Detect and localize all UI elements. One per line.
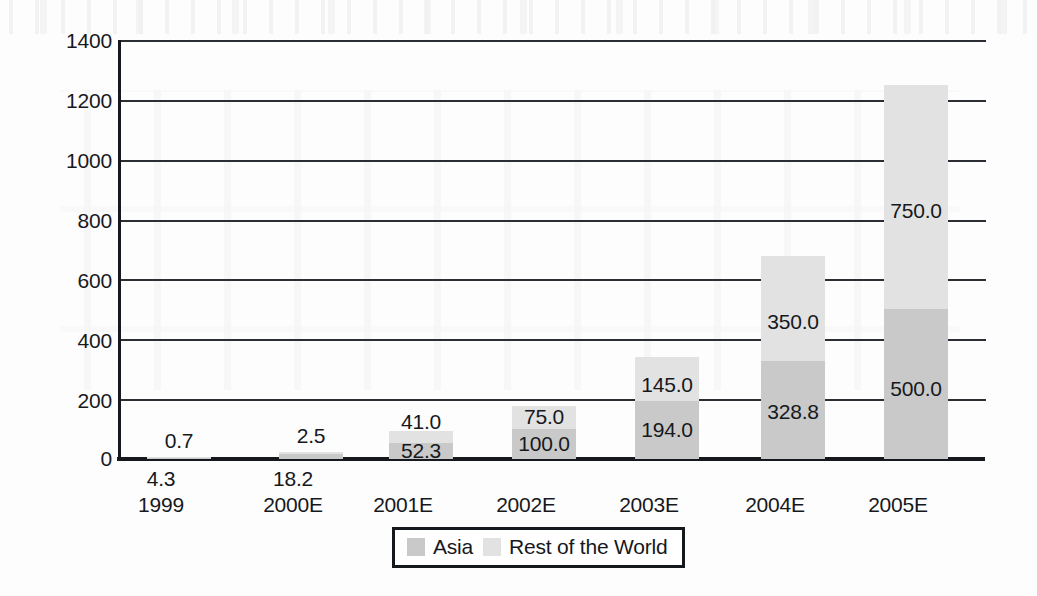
bar-label-rest-of-world-2002E: 75.0 <box>524 405 564 429</box>
x-category-2000E: 18.2 2000E <box>247 466 339 518</box>
bar-1999[interactable]: 0.7 <box>147 457 211 459</box>
bar-label-rest-of-world-2001E: 41.0 <box>401 410 441 434</box>
bar-2003E[interactable]: 194.0 145.0 <box>635 357 699 459</box>
asia-swatch-icon <box>407 538 425 556</box>
bar-label-asia-2005E: 500.0 <box>890 377 942 401</box>
gridline-800 <box>118 220 986 222</box>
x-category-below-value-1999: 4.3 <box>115 466 207 492</box>
y-axis-line <box>118 40 121 459</box>
y-tick-label-600: 600 <box>26 269 112 293</box>
gridline-1200 <box>118 100 986 102</box>
x-category-name-2003E: 2003E <box>603 492 695 518</box>
bar-label-asia-2001E: 52.3 <box>401 439 441 463</box>
bar-2002E[interactable]: 100.0 75.0 <box>512 406 576 459</box>
x-category-below-value-2000E: 18.2 <box>247 466 339 492</box>
x-category-name-2001E: 2001E <box>357 492 449 518</box>
x-category-2003E: 2003E <box>603 492 695 518</box>
x-category-name-2004E: 2004E <box>729 492 821 518</box>
bar-2001E[interactable]: 52.3 41.0 <box>389 431 453 459</box>
legend-label-asia: Asia <box>433 535 473 559</box>
y-tick-label-200: 200 <box>26 389 112 413</box>
bar-label-asia-2004E: 328.8 <box>767 400 819 424</box>
x-category-name-1999: 1999 <box>115 492 207 518</box>
bar-label-rest-of-world-2005E: 750.0 <box>890 199 942 223</box>
bar-segment-rest-of-world-1999 <box>147 457 211 458</box>
scanned-page: 1400 1200 1000 800 600 400 200 0 0.7 <box>0 0 1037 596</box>
x-category-name-2000E: 2000E <box>247 492 339 518</box>
x-category-2001E: 2001E <box>357 492 449 518</box>
y-tick-label-400: 400 <box>26 329 112 353</box>
bar-label-asia-2003E: 194.0 <box>641 418 693 442</box>
gridline-1000 <box>118 160 986 162</box>
y-tick-label-800: 800 <box>26 209 112 233</box>
bar-segment-rest-of-world-2005E <box>884 85 948 309</box>
gridline-600 <box>118 279 986 281</box>
x-category-1999: 4.3 1999 <box>115 466 207 518</box>
plot-area: 0.7 2.5 52.3 41.0 100.0 75.0 <box>118 40 982 459</box>
legend-entry-rest-of-the-world[interactable]: Rest of the World <box>483 535 667 559</box>
y-tick-label-1000: 1000 <box>26 149 112 173</box>
stacked-bar-chart: 1400 1200 1000 800 600 400 200 0 0.7 <box>0 0 1037 596</box>
y-tick-label-0: 0 <box>26 447 112 471</box>
x-category-name-2005E: 2005E <box>852 492 944 518</box>
x-category-name-2002E: 2002E <box>480 492 572 518</box>
bar-2005E[interactable]: 500.0 750.0 <box>884 85 948 459</box>
gridline-200 <box>118 399 986 401</box>
bar-segment-asia-1999 <box>147 458 211 459</box>
bar-label-rest-of-world-2000E: 2.5 <box>297 424 326 448</box>
y-tick-label-1200: 1200 <box>26 89 112 113</box>
bar-label-rest-of-world-2004E: 350.0 <box>767 310 819 334</box>
bar-2000E[interactable]: 2.5 <box>279 452 343 459</box>
x-category-2005E: 2005E <box>852 492 944 518</box>
y-tick-label-1400: 1400 <box>26 29 112 53</box>
bar-2004E[interactable]: 328.8 350.0 <box>761 256 825 459</box>
legend-label-rest-of-the-world: Rest of the World <box>509 535 667 559</box>
bar-segment-rest-of-world-2000E <box>279 452 343 454</box>
x-category-2002E: 2002E <box>480 492 572 518</box>
x-category-2004E: 2004E <box>729 492 821 518</box>
bar-label-asia-2002E: 100.0 <box>518 432 570 456</box>
rest-of-world-swatch-icon <box>483 538 501 556</box>
legend-entry-asia[interactable]: Asia <box>407 535 473 559</box>
chart-legend: Asia Rest of the World <box>392 527 685 568</box>
gridline-1400 <box>118 40 986 42</box>
bar-segment-rest-of-world-2004E <box>761 256 825 361</box>
bar-label-rest-of-world-1999: 0.7 <box>165 429 194 453</box>
bar-segment-asia-2000E <box>279 454 343 459</box>
gridline-400 <box>118 339 986 341</box>
bar-label-rest-of-world-2003E: 145.0 <box>641 373 693 397</box>
